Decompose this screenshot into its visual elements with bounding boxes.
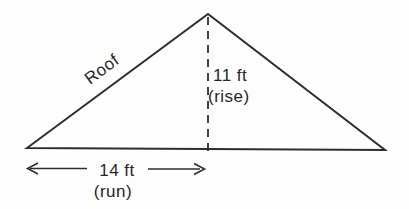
rise-caption-label: (rise) — [208, 87, 250, 106]
run-value-label: 14 ft — [99, 161, 135, 180]
run-caption-label: (run) — [94, 182, 132, 201]
rise-value-label: 11 ft — [213, 66, 247, 85]
figure-background — [0, 0, 409, 209]
roof-triangle-diagram: Roof 11 ft (rise) 14 ft (run) — [0, 0, 409, 209]
roof-diagram-figure: Roof 11 ft (rise) 14 ft (run) — [0, 0, 409, 209]
